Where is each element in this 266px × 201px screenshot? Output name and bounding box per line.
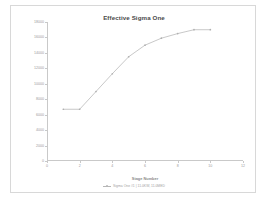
y-axis-tick-mark bbox=[45, 84, 47, 85]
x-axis-title: Stage Number bbox=[47, 176, 243, 181]
series-data-point bbox=[144, 44, 146, 46]
chart-page: Effective Sigma One Effective Sigma One … bbox=[0, 0, 266, 201]
y-axis-tick-mark bbox=[45, 22, 47, 23]
y-axis-tick-label: 10000 bbox=[34, 82, 44, 86]
legend-entry-label: Sigma One #1 | 11.0KW, 11.0MED bbox=[113, 184, 165, 188]
series-line-chart bbox=[47, 22, 243, 161]
x-axis-tick-mark bbox=[178, 161, 179, 163]
x-axis-tick-label: 0 bbox=[46, 164, 48, 168]
x-axis-tick-mark bbox=[47, 161, 48, 163]
series-data-point bbox=[209, 29, 211, 31]
y-axis-tick-mark bbox=[45, 68, 47, 69]
y-axis-tick-mark bbox=[45, 130, 47, 131]
y-axis-tick-label: 0 bbox=[42, 159, 44, 163]
chart-legend: Sigma One #1 | 11.0KW, 11.0MED bbox=[11, 184, 257, 188]
x-axis-tick-mark bbox=[80, 161, 81, 163]
chart-title: Effective Sigma One bbox=[11, 14, 257, 21]
series-data-point bbox=[111, 73, 113, 75]
y-axis-tick-mark bbox=[45, 37, 47, 38]
x-axis-tick-mark bbox=[210, 161, 211, 163]
y-axis-tick-label: 18000 bbox=[34, 20, 44, 24]
x-axis-tick-mark bbox=[112, 161, 113, 163]
x-axis-tick-label: 6 bbox=[144, 164, 146, 168]
x-axis-tick-label: 8 bbox=[177, 164, 179, 168]
series-data-point bbox=[128, 56, 130, 58]
series-data-point bbox=[95, 91, 97, 93]
x-axis-tick-label: 2 bbox=[79, 164, 81, 168]
series-data-point bbox=[193, 29, 195, 31]
plot-area: 1800016000140001200010000800060004000200… bbox=[47, 22, 243, 161]
y-axis-tick-label: 14000 bbox=[34, 51, 44, 55]
slide-frame: Effective Sigma One Effective Sigma One … bbox=[10, 5, 256, 193]
y-axis-tick-label: 4000 bbox=[36, 128, 44, 132]
x-axis-tick-label: 4 bbox=[111, 164, 113, 168]
y-axis-title: Effective Sigma One [µm] bbox=[24, 0, 32, 22]
y-axis-tick-mark bbox=[45, 146, 47, 147]
series-data-point bbox=[160, 37, 162, 39]
series-data-point bbox=[79, 108, 81, 110]
series-data-point bbox=[177, 33, 179, 35]
y-axis-tick-label: 12000 bbox=[34, 66, 44, 70]
y-axis-tick-mark bbox=[45, 53, 47, 54]
x-axis-tick-label: 10 bbox=[208, 164, 212, 168]
line-marker-icon bbox=[103, 186, 111, 187]
series-data-point bbox=[62, 108, 64, 110]
y-axis-tick-label: 6000 bbox=[36, 113, 44, 117]
y-axis-tick-label: 16000 bbox=[34, 35, 44, 39]
y-axis-tick-mark bbox=[45, 115, 47, 116]
x-axis-tick-mark bbox=[243, 161, 244, 163]
y-axis-tick-label: 8000 bbox=[36, 97, 44, 101]
series-line bbox=[63, 30, 210, 110]
x-axis-tick-mark bbox=[145, 161, 146, 163]
y-axis-tick-label: 2000 bbox=[36, 144, 44, 148]
y-axis-tick-mark bbox=[45, 99, 47, 100]
x-axis-tick-label: 12 bbox=[241, 164, 245, 168]
